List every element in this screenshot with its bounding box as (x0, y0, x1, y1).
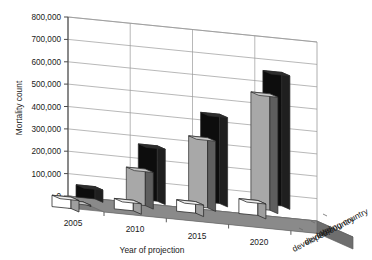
y-tick-label: 200,000 (31, 147, 61, 156)
y-tick-label: 600,000 (31, 58, 61, 67)
y-axis-title: Mortality count (14, 80, 24, 135)
bar-developing-2020 (251, 92, 278, 214)
x-tick-label: 2015 (188, 231, 207, 241)
y-tick-label: 400,000 (31, 103, 61, 112)
bar-developing-2015 (189, 136, 216, 212)
x-tick-label: 2005 (64, 218, 83, 228)
y-tick-label: 100,000 (31, 170, 61, 179)
mortality-projection-chart: 0 100,000 200,000 300,000 400,000 500,00… (0, 0, 372, 260)
x-axis-title: Year of projection (120, 245, 185, 255)
y-tick-label: 300,000 (31, 125, 61, 134)
x-tick-label: 2020 (250, 237, 269, 247)
y-tick-label: 700,000 (31, 35, 61, 44)
y-tick-label: 800,000 (31, 13, 61, 22)
y-tick-label: 500,000 (31, 80, 61, 89)
chart-canvas: 0 100,000 200,000 300,000 400,000 500,00… (0, 0, 372, 260)
y-tick-labels: 0 100,000 200,000 300,000 400,000 500,00… (31, 13, 61, 201)
x-tick-label: 2010 (126, 224, 145, 234)
